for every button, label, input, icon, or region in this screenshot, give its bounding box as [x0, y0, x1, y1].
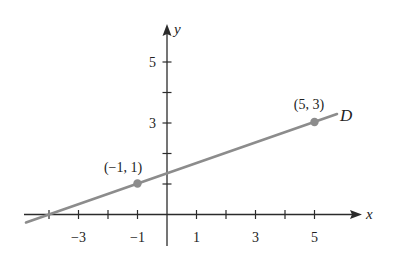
- line-d-label: D: [339, 106, 353, 125]
- coordinate-plane: x −3 −1 1 3 5 y 3 5: [0, 0, 397, 254]
- x-tick-label: 5: [311, 230, 318, 245]
- y-tick-label: 5: [149, 55, 156, 70]
- point-5-3: (5, 3): [294, 97, 325, 126]
- line-d: D: [26, 106, 353, 223]
- x-axis-label: x: [365, 206, 373, 222]
- y-tick-label: 3: [149, 116, 156, 131]
- x-tick-label: 3: [252, 230, 259, 245]
- point-5-3-label: (5, 3): [294, 97, 325, 113]
- x-tick-label: 1: [193, 230, 200, 245]
- x-tick-label: −3: [71, 230, 86, 245]
- y-axis-label: y: [172, 21, 181, 37]
- x-axis: x −3 −1 1 3 5: [24, 206, 373, 245]
- y-axis: y 3 5: [149, 21, 181, 246]
- point-neg1-1-label: (−1, 1): [104, 160, 143, 176]
- point-neg1-1: (−1, 1): [104, 160, 143, 188]
- x-tick-label: −1: [130, 230, 145, 245]
